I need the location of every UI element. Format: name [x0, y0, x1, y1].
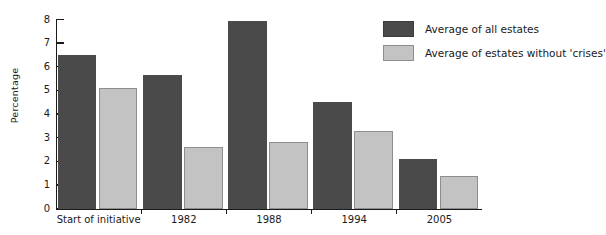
y-tick-label: 3	[30, 133, 50, 143]
x-tick-label: Start of initiative	[57, 214, 141, 226]
bar	[354, 131, 393, 209]
x-tick-label: 2005	[427, 214, 452, 226]
chart-legend: Average of all estates Average of estate…	[383, 17, 606, 65]
y-tick	[56, 19, 64, 20]
legend-item: Average of all estates	[383, 17, 606, 41]
x-tick	[311, 209, 312, 214]
bar	[184, 147, 223, 208]
bar	[269, 142, 308, 208]
legend-item-label: Average of all estates	[425, 23, 539, 35]
y-tick-label: 8	[30, 15, 50, 25]
y-axis-title: Percentage	[9, 54, 20, 138]
y-tick-label: 5	[30, 85, 50, 95]
y-tick	[56, 42, 64, 43]
x-tick-label: 1994	[341, 214, 366, 226]
x-tick-label: 1988	[256, 214, 281, 226]
bar	[313, 102, 352, 208]
x-axis-line	[56, 209, 482, 210]
x-tick-label: 1982	[171, 214, 196, 226]
bar	[143, 75, 182, 209]
legend-item: Average of estates without 'crises'	[383, 41, 606, 65]
bar	[99, 88, 138, 209]
x-tick	[226, 209, 227, 214]
x-tick	[396, 209, 397, 214]
y-tick-label: 4	[30, 109, 50, 119]
y-tick-label: 7	[30, 38, 50, 48]
legend-swatch-icon	[383, 21, 414, 37]
bar	[440, 176, 479, 209]
bar	[228, 21, 267, 209]
bar	[58, 55, 97, 209]
legend-swatch-icon	[383, 45, 414, 61]
x-tick	[141, 209, 142, 214]
y-tick-label: 2	[30, 156, 50, 166]
y-tick-label: 0	[30, 204, 50, 214]
y-tick-label: 1	[30, 180, 50, 190]
y-tick-label: 6	[30, 62, 50, 72]
legend-item-label: Average of estates without 'crises'	[425, 47, 606, 59]
bar	[399, 159, 438, 209]
